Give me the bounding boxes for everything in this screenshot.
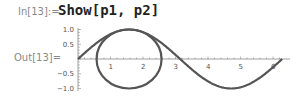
x-tick-label: 1 [109,63,113,71]
x-tick-label: 5 [239,63,243,71]
y-tick-label: −1.0 [57,85,74,93]
plot: 1234561.00.5−0.5−1.0 [0,0,301,100]
y-tick-label: 1.0 [63,26,74,34]
y-tick-label: 0.5 [63,41,74,49]
x-tick-label: 2 [141,63,145,71]
x-tick-label: 4 [206,63,211,71]
y-tick-label: −0.5 [57,70,74,78]
x-tick-label: 3 [174,63,178,71]
